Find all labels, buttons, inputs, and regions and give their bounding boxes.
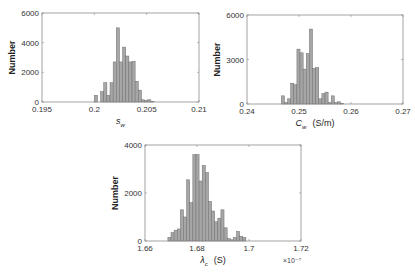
- histogram-bar: [168, 237, 171, 241]
- y-tick-label: 6000: [226, 11, 244, 20]
- histogram-bar: [240, 236, 243, 241]
- x-tick-label: 1.7: [243, 244, 255, 253]
- y-tick-label: 4000: [21, 39, 39, 48]
- y-tick-label: 0: [35, 98, 40, 107]
- y-axis-label: Number: [212, 42, 222, 77]
- histogram-bar: [291, 83, 294, 104]
- histogram-bars: [94, 28, 154, 102]
- histogram-bar: [297, 49, 300, 104]
- histogram-bar: [180, 210, 183, 241]
- y-tick-label: 0: [138, 237, 143, 246]
- histogram-bar: [288, 99, 291, 104]
- y-tick-label: 3000: [226, 56, 244, 65]
- histogram-bar: [237, 231, 240, 241]
- histogram-bar: [313, 68, 316, 104]
- x-tick-label: 0.25: [291, 107, 307, 116]
- histogram-bar: [126, 56, 129, 102]
- histogram-bar: [319, 99, 322, 104]
- histogram-bar: [281, 96, 284, 104]
- histogram-bar: [135, 81, 138, 102]
- histogram-bar: [316, 68, 319, 104]
- axes-box: [247, 15, 403, 104]
- histogram-bar: [331, 96, 334, 104]
- x-tick-label: 0.21: [191, 105, 207, 114]
- histogram-bar: [303, 69, 306, 104]
- histogram-bar: [306, 54, 309, 104]
- histogram-bar: [218, 218, 221, 241]
- histogram-bar: [202, 165, 205, 241]
- histogram-bar: [174, 230, 177, 241]
- x-axis-label: Cw(S/m): [296, 118, 335, 130]
- x-axis-label: sw: [116, 116, 126, 128]
- histogram-bar: [101, 92, 104, 102]
- histogram-bar: [104, 83, 107, 102]
- y-tick-label: 0: [240, 100, 245, 109]
- x-tick-label: 1.68: [189, 244, 205, 253]
- histogram-cw: 0.240.250.260.27030006000NumberCw(S/m): [212, 11, 411, 130]
- x-tick-label: 0.27: [395, 107, 411, 116]
- x-tick-label: 0.205: [137, 105, 158, 114]
- histogram-bar: [215, 222, 218, 241]
- histogram-bar: [187, 180, 190, 241]
- histogram-bar: [208, 201, 211, 241]
- histogram-bar: [294, 85, 297, 104]
- histogram-bar: [325, 92, 328, 104]
- x-tick-label: 0.26: [343, 107, 359, 116]
- histogram-bar: [119, 62, 122, 102]
- histogram-bar: [221, 210, 224, 241]
- histogram-bar: [205, 173, 208, 241]
- histogram-bar: [300, 53, 303, 104]
- histogram-bar: [113, 62, 116, 102]
- histogram-bar: [183, 217, 186, 241]
- histogram-bars: [281, 29, 343, 104]
- y-axis-label: Number: [110, 176, 120, 211]
- histogram-bar: [193, 155, 196, 241]
- histogram-bar: [212, 211, 215, 241]
- histogram-bar: [243, 237, 246, 241]
- histogram-bar: [132, 61, 135, 102]
- histogram-bar: [177, 229, 180, 241]
- x-tick-label: 0.2: [89, 105, 101, 114]
- histogram-lambda-c: 1.661.681.71.72020004000Numberλc(S)×10⁻⁷: [110, 141, 309, 267]
- histogram-sw: 0.1950.20.2050.210200040006000Numbersw: [7, 9, 207, 128]
- histogram-bar: [196, 155, 199, 241]
- histogram-bar: [190, 203, 193, 241]
- histogram-bar: [171, 233, 174, 241]
- histogram-bar: [199, 181, 202, 241]
- x-axis-label: λc(S): [199, 255, 225, 267]
- histogram-bar: [138, 90, 141, 102]
- histogram-bar: [116, 28, 119, 102]
- histogram-bar: [110, 83, 113, 102]
- y-tick-label: 2000: [124, 189, 142, 198]
- histogram-bar: [233, 237, 236, 241]
- axis-multiplier: ×10⁻⁷: [283, 257, 302, 264]
- y-axis-label: Number: [7, 40, 17, 75]
- histogram-figure: 0.1950.20.2050.210200040006000Numbersw 0…: [0, 0, 415, 275]
- y-tick-label: 4000: [124, 141, 142, 150]
- y-tick-label: 2000: [21, 68, 39, 77]
- y-tick-label: 6000: [21, 9, 39, 18]
- histogram-bar: [123, 47, 126, 102]
- histogram-bar: [107, 95, 110, 102]
- histogram-bar: [129, 62, 132, 102]
- histogram-bar: [224, 228, 227, 241]
- x-tick-label: 1.72: [293, 244, 309, 253]
- histogram-bars: [168, 155, 246, 241]
- histogram-bar: [94, 95, 97, 102]
- histogram-bar: [309, 29, 312, 104]
- histogram-bar: [322, 94, 325, 104]
